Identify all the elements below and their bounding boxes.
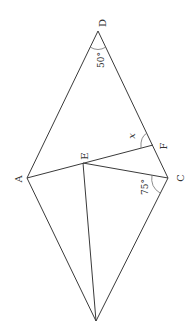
angle-label-x: x: [126, 133, 137, 139]
segment-AF: [27, 145, 153, 178]
segment-EC: [83, 163, 168, 178]
segment-DC: [98, 31, 168, 178]
angle-label-D: 50°: [96, 52, 106, 68]
segment-CB: [96, 178, 168, 321]
label-E: E: [79, 152, 90, 159]
label-F: F: [158, 142, 169, 149]
label-A: A: [13, 175, 24, 184]
geometry-diagram: D A C E F 50° x 75°: [0, 0, 192, 321]
label-C: C: [175, 174, 186, 182]
angle-arc-F: [141, 133, 147, 148]
angle-label-C: 75°: [140, 179, 150, 195]
angle-arc-C: [152, 175, 160, 193]
label-D: D: [97, 19, 108, 27]
angle-arc-D: [90, 47, 106, 50]
